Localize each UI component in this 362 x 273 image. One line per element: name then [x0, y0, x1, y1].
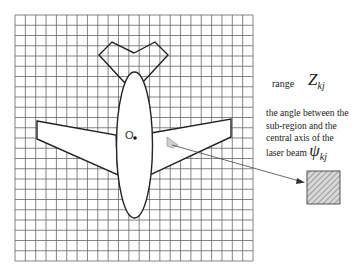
airplane-outline: [37, 42, 231, 218]
range-symbol: Zkj: [308, 70, 325, 91]
range-label: range: [272, 78, 294, 89]
hatched-subregion-square: [307, 171, 340, 204]
angle-description: the angle between the sub-region and the…: [266, 107, 362, 163]
fuselage: [117, 72, 153, 218]
origin-point: [133, 136, 137, 140]
origin-label: O: [125, 129, 134, 141]
arrowhead: [296, 178, 305, 184]
angle-symbol: ψ: [309, 141, 320, 160]
